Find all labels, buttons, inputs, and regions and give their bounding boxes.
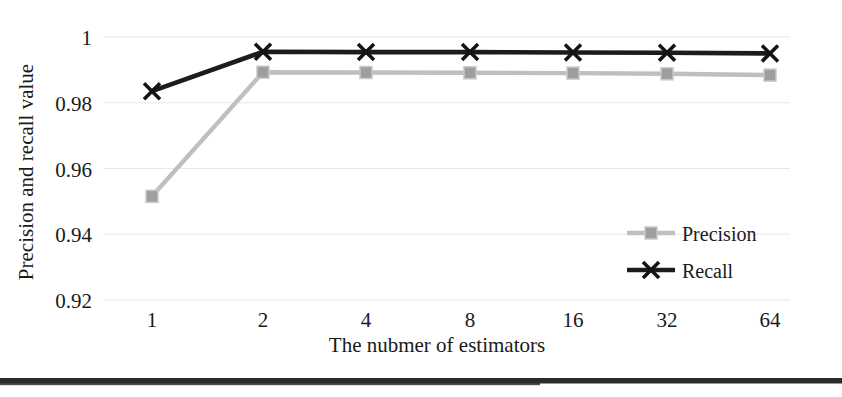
- y-tick-label: 0.96: [55, 158, 92, 182]
- y-tick-label: 0.98: [55, 92, 92, 116]
- chart-figure: 1 0.98 0.96 0.94 0.92 1 2 4 8 16 32 64 T…: [0, 0, 842, 397]
- precision-marker: [464, 67, 476, 79]
- line-chart: 1 0.98 0.96 0.94 0.92 1 2 4 8 16 32 64 T…: [0, 0, 842, 397]
- y-tick-label: 0.92: [55, 289, 92, 313]
- x-tick-label: 64: [760, 308, 782, 332]
- precision-marker: [567, 67, 579, 79]
- x-tick-label: 32: [657, 308, 678, 332]
- precision-marker: [661, 68, 673, 80]
- precision-marker: [360, 67, 372, 79]
- y-axis-title: Precision and recall value: [14, 64, 38, 280]
- legend-label-precision: Precision: [682, 223, 756, 245]
- x-tick-label: 1: [147, 308, 158, 332]
- legend-label-recall: Recall: [682, 260, 734, 282]
- bottom-divider-rule: [0, 378, 842, 384]
- precision-marker: [764, 69, 776, 81]
- precision-marker: [146, 190, 158, 202]
- x-tick-label: 16: [563, 308, 584, 332]
- x-tick-label: 8: [465, 308, 476, 332]
- legend-swatch-precision-marker: [645, 227, 657, 239]
- y-tick-label: 0.94: [55, 223, 92, 247]
- y-tick-label: 1: [82, 26, 93, 50]
- x-tick-label: 4: [361, 308, 372, 332]
- bottom-divider-rule-secondary: [0, 383, 540, 385]
- precision-marker: [257, 66, 269, 78]
- x-axis-title: The nubmer of estimators: [329, 333, 545, 357]
- x-tick-label: 2: [258, 308, 269, 332]
